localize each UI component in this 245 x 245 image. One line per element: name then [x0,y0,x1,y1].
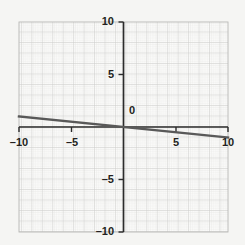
x-tick-label-minus-5: –5 [57,137,87,148]
y-tick-label-0: 0 [129,105,135,116]
x-tick-label-minus-10: –10 [4,137,34,148]
y-tick-label-5: 5 [84,69,114,80]
x-tick-label-5: 5 [161,137,191,148]
x-tick-label-10: 10 [213,137,243,148]
y-tick-label-minus-10: –10 [84,226,114,237]
y-tick-label-minus-5: –5 [84,174,114,185]
y-tick-label-10: 10 [84,16,114,27]
graph-figure: 10 5 0 –5 –10 –10 –5 5 10 [0,0,245,245]
coordinate-plane [0,0,245,245]
